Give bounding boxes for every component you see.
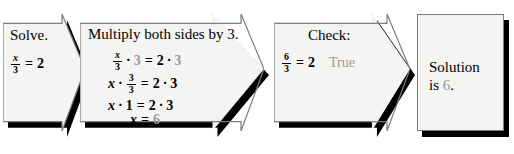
- multiplication-operator: ·: [115, 77, 126, 91]
- right-first-term: 2: [149, 99, 156, 113]
- multiplication-operator: ·: [115, 99, 126, 113]
- equation-line: x = 6: [130, 113, 160, 127]
- fraction-denominator: 3: [282, 63, 291, 75]
- multiplication-operator: ·: [160, 77, 171, 91]
- equation-line: x · 3 3 = 2 · 3: [108, 73, 177, 95]
- flow-step-solution: Solution is 6.: [417, 14, 504, 131]
- solution-line-1: Solution: [429, 59, 480, 75]
- equation-solving-flowchart: Solve. x 3 = 2 Multiply both sides by 3.…: [0, 0, 514, 154]
- equation-line: 6 3 = 2 True: [281, 52, 355, 74]
- relation-operator: =: [137, 113, 153, 127]
- right-second-term: 3: [170, 77, 177, 91]
- right-hand-side: 2: [308, 56, 315, 70]
- left-variable: x: [130, 113, 137, 127]
- fraction-denominator: 3: [127, 84, 136, 96]
- fraction: x 3: [113, 50, 122, 72]
- fraction-numerator: 6: [282, 52, 291, 63]
- panel-content: Check: 6 3 = 2 True: [274, 14, 410, 131]
- flow-step-solve: Solve. x 3 = 2: [3, 14, 85, 131]
- step-heading: Multiply both sides by 3.: [88, 27, 238, 42]
- relation-operator: =: [292, 56, 308, 70]
- right-first-term: 2: [157, 54, 164, 68]
- fraction: 6 3: [282, 52, 291, 74]
- right-first-term: 2: [153, 77, 160, 91]
- solution-value: 6: [153, 113, 160, 127]
- relation-operator: =: [21, 57, 37, 71]
- left-variable: x: [108, 99, 115, 113]
- panel-content: Solution is 6.: [417, 14, 504, 131]
- solution-line-2-prefix: is: [429, 77, 443, 93]
- multiplication-operator: ·: [123, 54, 134, 68]
- flow-step-check: Check: 6 3 = 2 True: [274, 14, 410, 131]
- fraction: 3 3: [127, 73, 136, 95]
- relation-operator: =: [141, 54, 157, 68]
- fraction-denominator: 3: [113, 61, 122, 73]
- equation-line: x 3 = 2: [10, 53, 44, 75]
- step-heading: Solve.: [10, 28, 48, 43]
- relation-operator: =: [137, 77, 153, 91]
- equation-line: x · 1 = 2 · 3: [108, 99, 173, 113]
- check-verdict: True: [315, 56, 355, 70]
- right-second-term: 3: [166, 99, 173, 113]
- fraction: x 3: [11, 53, 20, 75]
- panel-content: Multiply both sides by 3. x 3 · 3 = 2 · …: [80, 14, 264, 131]
- right-hand-side: 2: [37, 57, 44, 71]
- flow-step-multiply: Multiply both sides by 3. x 3 · 3 = 2 · …: [80, 14, 264, 131]
- step-heading: Check:: [308, 28, 351, 43]
- solution-text: Solution is 6.: [429, 58, 480, 95]
- fraction-numerator: x: [113, 50, 122, 61]
- left-factor: 1: [126, 99, 133, 113]
- left-factor: 3: [134, 54, 141, 68]
- right-second-term: 3: [174, 54, 181, 68]
- panel-content: Solve. x 3 = 2: [3, 14, 85, 131]
- solution-line-2-suffix: .: [450, 77, 454, 93]
- fraction-numerator: x: [11, 53, 20, 64]
- multiplication-operator: ·: [156, 99, 167, 113]
- equation-line: x 3 · 3 = 2 · 3: [112, 50, 181, 72]
- left-variable: x: [108, 77, 115, 91]
- fraction-numerator: 3: [127, 73, 136, 84]
- fraction-denominator: 3: [11, 64, 20, 76]
- multiplication-operator: ·: [164, 54, 175, 68]
- relation-operator: =: [133, 99, 149, 113]
